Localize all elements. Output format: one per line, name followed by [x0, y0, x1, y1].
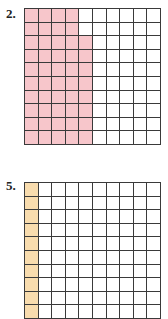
grid-cell	[107, 63, 121, 77]
grid-cell	[134, 251, 148, 265]
grid-cell-shaded	[66, 63, 80, 77]
grid-cell	[39, 197, 53, 211]
grid-cell-shaded	[39, 118, 53, 132]
grid-cell	[134, 278, 148, 292]
grid-cell	[120, 305, 134, 319]
grid-cell-shaded	[66, 9, 80, 23]
grid-cell-shaded	[79, 63, 93, 77]
grid-cell	[107, 91, 121, 105]
grid-cell	[107, 210, 121, 224]
grid-cell-shaded	[25, 278, 39, 292]
grid-cell	[147, 197, 161, 211]
grid-cell-shaded	[39, 77, 53, 91]
grid-cell	[147, 23, 161, 37]
grid-cell	[120, 197, 134, 211]
grid-cell-shaded	[52, 77, 66, 91]
grid-cell	[134, 183, 148, 197]
grid-cell-shaded	[39, 63, 53, 77]
grid-cell-shaded	[25, 77, 39, 91]
grid-cell	[66, 278, 80, 292]
problem-label: 5.	[6, 178, 16, 194]
grid-cell-shaded	[79, 131, 93, 145]
grid-cell	[79, 292, 93, 306]
grid-cell	[120, 118, 134, 132]
grid-cell-shaded	[52, 36, 66, 50]
grid-cell	[120, 9, 134, 23]
grid-cell	[93, 305, 107, 319]
grid-cell-shaded	[39, 104, 53, 118]
grid-cell-shaded	[25, 224, 39, 238]
grid-cell	[39, 292, 53, 306]
grid-cell	[107, 305, 121, 319]
grid-cell-shaded	[39, 9, 53, 23]
grid-cell	[93, 23, 107, 37]
grid-cell	[66, 305, 80, 319]
grid-cell	[93, 224, 107, 238]
grid-cell	[79, 305, 93, 319]
grid-cell	[52, 265, 66, 279]
grid-cell	[147, 251, 161, 265]
grid-cell	[107, 131, 121, 145]
grid-cell	[107, 197, 121, 211]
grid-cell	[93, 104, 107, 118]
grid-cell	[66, 224, 80, 238]
grid-cell	[120, 292, 134, 306]
hundred-grid	[24, 182, 161, 319]
grid-cell-shaded	[79, 36, 93, 50]
grid-cell	[134, 36, 148, 50]
grid-cell-shaded	[25, 292, 39, 306]
grid-cell	[120, 50, 134, 64]
grid-cell	[93, 278, 107, 292]
grid-cell-shaded	[66, 131, 80, 145]
grid-cell	[93, 36, 107, 50]
grid-cell-shaded	[39, 23, 53, 37]
grid-cell	[107, 104, 121, 118]
grid-cell-shaded	[66, 23, 80, 37]
grid-cell	[93, 251, 107, 265]
grid-cell	[93, 265, 107, 279]
grid-cell-shaded	[52, 9, 66, 23]
grid-cell	[79, 237, 93, 251]
grid-cell	[66, 292, 80, 306]
grid-cell-shaded	[25, 36, 39, 50]
grid-cell	[134, 197, 148, 211]
grid-cell	[147, 183, 161, 197]
grid-cell	[120, 224, 134, 238]
grid-cell	[107, 251, 121, 265]
grid-cell	[66, 237, 80, 251]
grid-cell	[134, 292, 148, 306]
grid-cell	[107, 292, 121, 306]
grid-cell-shaded	[25, 118, 39, 132]
grid-cell	[147, 104, 161, 118]
grid-cell-shaded	[25, 183, 39, 197]
grid-cell-shaded	[25, 63, 39, 77]
grid-cell	[134, 9, 148, 23]
grid-cell	[147, 77, 161, 91]
grid-cell	[79, 23, 93, 37]
grid-cell	[147, 9, 161, 23]
grid-cell-shaded	[79, 91, 93, 105]
grid-cell-shaded	[25, 50, 39, 64]
grid-cell	[39, 278, 53, 292]
grid-cell	[134, 237, 148, 251]
grid-cell	[79, 9, 93, 23]
grid-cell	[93, 183, 107, 197]
grid-cell-shaded	[52, 104, 66, 118]
grid-cell	[120, 63, 134, 77]
grid-cell	[134, 104, 148, 118]
grid-cell	[93, 50, 107, 64]
grid-cell	[39, 265, 53, 279]
hundred-grid	[24, 8, 161, 145]
grid-cell-shaded	[25, 210, 39, 224]
grid-cell	[120, 77, 134, 91]
grid-cell	[147, 118, 161, 132]
grid-cell	[134, 265, 148, 279]
grid-cell-shaded	[25, 104, 39, 118]
grid-cell	[134, 131, 148, 145]
grid-cell-shaded	[66, 91, 80, 105]
grid-cell	[120, 183, 134, 197]
grid-cell	[52, 224, 66, 238]
grid-cell-shaded	[25, 197, 39, 211]
grid-cell-shaded	[79, 77, 93, 91]
grid-cell	[93, 210, 107, 224]
